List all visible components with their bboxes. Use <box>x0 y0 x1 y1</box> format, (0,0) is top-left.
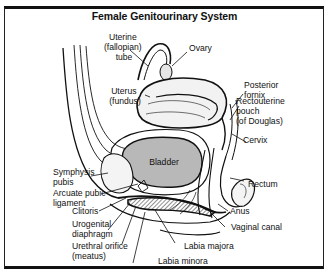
ovary-shape <box>160 64 172 80</box>
label-labia-minora: Labia minora <box>158 256 208 266</box>
label-vaginal-canal: Vaginal canal <box>231 222 282 232</box>
label-anus: Anus <box>230 206 250 216</box>
label-arcuate-pubic-ligament: Arcuate pubic ligament <box>53 188 108 208</box>
label-rectouterine-pouch: Rectouterine pouch (of Douglas) <box>236 96 287 126</box>
label-bladder: Bladder <box>149 157 179 167</box>
label-clitoris: Clitoris <box>72 206 98 216</box>
label-cervix: Cervix <box>243 135 268 145</box>
label-labia-majora: Labia majora <box>184 241 234 251</box>
label-uterus: Uterus (fundus) <box>109 86 141 106</box>
label-rectum: Rectum <box>248 179 278 189</box>
label-urethral-orifice: Urethral orifice (meatus) <box>72 241 130 261</box>
label-urogenital-diaphragm: Urogenital diaphragm <box>72 219 114 239</box>
label-ovary: Ovary <box>189 43 213 53</box>
female-genitourinary-diagram: Uterine (fallopian) tube Ovary Uterus (f… <box>0 0 329 275</box>
